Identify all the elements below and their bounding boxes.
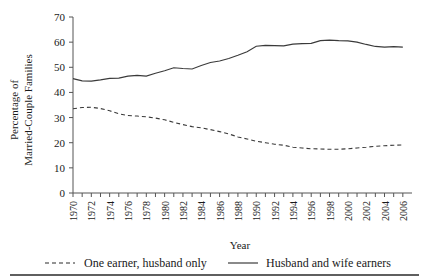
y-axis-title: Percentage of Married-Couple Families bbox=[8, 54, 34, 166]
x-tick-label: 1982 bbox=[178, 201, 189, 221]
legend-label-husband-and-wife-earners: Husband and wife earners bbox=[266, 256, 391, 270]
x-tick-label: 1980 bbox=[160, 201, 171, 221]
y-tick-label: 40 bbox=[54, 86, 66, 98]
x-tick-label: 2000 bbox=[343, 201, 354, 221]
y-tick-label: 0 bbox=[60, 187, 66, 199]
x-axis-ticks: 1970197219741976197819801982198419861988… bbox=[68, 193, 409, 221]
x-tick-label: 1972 bbox=[86, 201, 97, 221]
y-tick-label: 10 bbox=[54, 162, 66, 174]
y-tick-label: 20 bbox=[54, 137, 66, 149]
x-tick-label: 1994 bbox=[288, 201, 299, 221]
line-chart-canvas: Percentage of Married-Couple Families 01… bbox=[0, 0, 429, 279]
x-axis-title: Year bbox=[230, 239, 251, 251]
x-tick-label: 1978 bbox=[141, 201, 152, 221]
y-axis-title-line1: Percentage of bbox=[8, 80, 20, 140]
x-tick-label: 2006 bbox=[398, 201, 409, 221]
y-tick-label: 70 bbox=[54, 11, 66, 23]
x-tick-label: 1998 bbox=[325, 201, 336, 221]
x-tick-label: 1992 bbox=[270, 201, 281, 221]
series-husband-and-wife-earners bbox=[73, 40, 403, 81]
x-tick-label: 1976 bbox=[123, 201, 134, 221]
x-tick-label: 1990 bbox=[251, 201, 262, 221]
y-axis-ticks: 010203040506070 bbox=[54, 11, 73, 199]
x-tick-label: 2002 bbox=[361, 201, 372, 221]
x-tick-label: 1988 bbox=[233, 201, 244, 221]
x-tick-label: 1984 bbox=[196, 201, 207, 221]
y-tick-label: 30 bbox=[54, 112, 66, 124]
legend: One earner, husband only Husband and wif… bbox=[10, 256, 419, 275]
x-tick-label: 1986 bbox=[215, 201, 226, 221]
x-tick-label: 2004 bbox=[380, 201, 391, 221]
legend-label-one-earner-husband-only: One earner, husband only bbox=[84, 256, 207, 270]
y-tick-label: 50 bbox=[54, 61, 66, 73]
y-tick-label: 60 bbox=[54, 36, 66, 48]
chart-figure: Percentage of Married-Couple Families 01… bbox=[0, 0, 429, 279]
x-tick-label: 1996 bbox=[306, 201, 317, 221]
y-axis-title-line2: Married-Couple Families bbox=[22, 54, 34, 166]
x-tick-label: 1970 bbox=[68, 201, 79, 221]
series-one-earner-husband-only bbox=[73, 107, 403, 149]
x-tick-label: 1974 bbox=[105, 201, 116, 221]
